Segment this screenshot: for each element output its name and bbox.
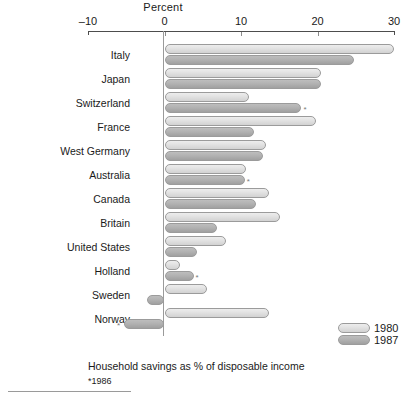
bar-note-norway: * bbox=[117, 322, 120, 330]
bar-holland-1980 bbox=[165, 260, 180, 270]
bar-australia-1980 bbox=[165, 164, 246, 174]
category-label-switzerland: Switzerland bbox=[76, 98, 130, 108]
bar-france-1987 bbox=[165, 127, 255, 137]
category-label-france: France bbox=[97, 122, 130, 132]
category-label-australia: Australia bbox=[89, 170, 130, 180]
x-axis-title: Percent bbox=[143, 1, 182, 13]
legend-label-1980: 1980 bbox=[374, 322, 398, 334]
x-tick-label-0: 0 bbox=[161, 15, 167, 27]
bar-note-australia: * bbox=[247, 178, 250, 186]
category-label-britain: Britain bbox=[100, 218, 130, 228]
category-label-united-states: United States bbox=[67, 242, 130, 252]
x-tick-mark-20 bbox=[318, 32, 319, 36]
zero-baseline bbox=[163, 31, 164, 336]
bar-note-holland: * bbox=[196, 274, 199, 282]
bar-switzerland-1987 bbox=[165, 103, 302, 113]
category-label-holland: Holland bbox=[94, 266, 130, 276]
bar-france-1980 bbox=[165, 116, 316, 126]
x-axis-right-cap bbox=[394, 31, 395, 35]
legend-swatch-1987 bbox=[338, 335, 370, 345]
x-tick-label-30: 30 bbox=[388, 15, 400, 27]
legend-swatch-1980 bbox=[338, 323, 370, 333]
bar-japan-1980 bbox=[165, 68, 322, 78]
bar-australia-1987 bbox=[165, 175, 245, 185]
category-label-japan: Japan bbox=[101, 74, 130, 84]
x-tick-label-neg10: –10 bbox=[79, 15, 97, 27]
savings-bar-chart: Percent –100102030 ItalyJapanSwitzerland… bbox=[0, 0, 411, 398]
bar-holland-1987 bbox=[165, 271, 194, 281]
x-tick-label-20: 20 bbox=[311, 15, 323, 27]
x-tick-mark-0 bbox=[165, 32, 166, 36]
chart-footnote: *1986 bbox=[88, 376, 112, 386]
category-label-canada: Canada bbox=[93, 194, 130, 204]
bar-italy-1980 bbox=[165, 44, 395, 54]
x-tick-mark-10 bbox=[241, 32, 242, 36]
bar-italy-1987 bbox=[165, 55, 355, 65]
bar-sweden-1980 bbox=[165, 284, 207, 294]
x-tick-label-10: 10 bbox=[235, 15, 247, 27]
legend-label-1987: 1987 bbox=[374, 334, 398, 346]
bar-note-switzerland: * bbox=[303, 106, 306, 114]
bar-canada-1980 bbox=[165, 188, 269, 198]
bar-canada-1987 bbox=[165, 199, 257, 209]
category-label-west-germany: West Germany bbox=[60, 146, 130, 156]
bar-britain-1980 bbox=[165, 212, 281, 222]
bar-japan-1987 bbox=[165, 79, 322, 89]
bar-sweden-1987 bbox=[147, 295, 165, 305]
bottom-rule bbox=[8, 391, 131, 392]
bar-britain-1987 bbox=[165, 223, 217, 233]
bar-west-germany-1980 bbox=[165, 140, 267, 150]
bar-switzerland-1980 bbox=[165, 92, 249, 102]
bar-united-states-1980 bbox=[165, 236, 226, 246]
category-label-italy: Italy bbox=[111, 50, 130, 60]
bar-norway-1987 bbox=[124, 319, 165, 329]
chart-caption: Household savings as % of disposable inc… bbox=[88, 360, 305, 372]
bar-west-germany-1987 bbox=[165, 151, 264, 161]
x-axis-left-cap bbox=[88, 31, 89, 35]
category-label-sweden: Sweden bbox=[92, 290, 130, 300]
bar-united-states-1987 bbox=[165, 247, 198, 257]
x-axis-line bbox=[88, 31, 395, 32]
bar-norway-1980 bbox=[165, 308, 270, 318]
